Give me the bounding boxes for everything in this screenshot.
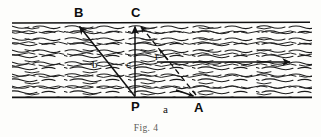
upper-interface-line: [12, 22, 310, 23]
label-segment-r: r: [155, 50, 159, 62]
label-point-p: P: [131, 99, 140, 114]
label-point-c: C: [131, 5, 141, 20]
figure-caption: Fig. 4: [134, 123, 159, 133]
figure-container: B C P A b c a r Fig. 4: [0, 0, 321, 137]
label-point-b: B: [74, 5, 83, 20]
figure-diagram: B C P A b c a r Fig. 4: [0, 0, 321, 137]
label-segment-b: b: [92, 58, 98, 70]
label-point-a: A: [194, 100, 204, 115]
label-segment-c: c: [126, 58, 131, 70]
medium-band: [12, 24, 312, 97]
label-segment-a: a: [163, 103, 168, 115]
